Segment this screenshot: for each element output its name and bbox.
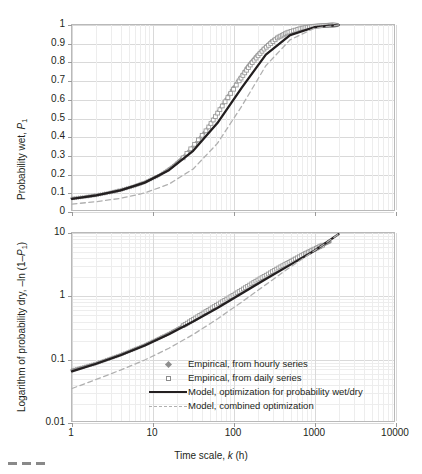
legend-dashed-line-icon-glyph [149,406,187,407]
legend-item-label: Model, optimization for probability wet/… [188,385,363,399]
x-axis-tick [72,212,73,216]
y-axis-tick-label: 0.1 [25,354,65,364]
x-axis-title: Time scale, k (h) [0,450,422,461]
gridline-vertical [396,25,397,210]
x-title-post: (h) [233,450,248,461]
gridline-vertical [396,233,397,421]
series-line-model-combined [72,25,339,204]
y-axis-tick-label: 0.2 [25,169,65,179]
y-axis-tick-label: 0.7 [25,75,65,85]
legend-item: Empirical, from daily series [148,371,363,385]
legend: Empirical, from hourly seriesEmpirical, … [148,357,363,413]
y-axis-tick-label: 0.9 [25,38,65,48]
y-axis-tick-label: 0.01 [25,417,65,427]
bottom-y-title-text: Logarithm of probability dry, –ln (1– [16,256,27,412]
series-markers-daily [181,243,324,327]
legend-item-label: Empirical, from hourly series [188,357,308,371]
top-y-title-var: P [16,123,27,130]
y-axis-tick-label: 10 [25,227,65,237]
x-axis-tick [396,212,397,216]
legend-item: Model, optimization for probability wet/… [148,385,363,399]
x-axis-tick [315,212,316,216]
bottom-y-title-var: P [16,249,27,256]
y-axis-tick-label: 0.5 [25,113,65,123]
gridline-horizontal [72,423,394,424]
legend-square-icon-glyph [166,376,171,381]
legend-dashed-line-icon [148,399,188,413]
series-markers-hourly [70,23,340,201]
bottom-y-title-sub: 1 [20,245,29,249]
y-axis-tick-label: 0 [25,206,65,216]
y-axis-tick-label: 0.6 [25,94,65,104]
y-axis-tick-label: 0.8 [25,56,65,66]
gridline-horizontal [72,212,394,213]
y-axis-tick-label: 0.1 [25,187,65,197]
legend-solid-line-icon-glyph [149,391,187,394]
bottom-panel-y-axis-title: Logarithm of probability dry, –ln (1–P1) [16,242,28,412]
legend-diamond-icon [148,357,188,371]
x-axis-tick [153,212,154,216]
legend-square-icon [148,371,188,385]
legend-item: Empirical, from hourly series [148,357,363,371]
caption-crop-artifact [8,462,60,466]
legend-item-label: Empirical, from daily series [188,371,302,385]
y-axis-tick-label: 0.3 [25,150,65,160]
legend-item: Model, combined optimization [148,399,363,413]
x-axis-tick-label: 10 [122,428,182,438]
y-axis-tick-label: 1 [25,19,65,29]
y-axis-tick-label: 1 [25,290,65,300]
legend-solid-line-icon [148,385,188,399]
figure-root: Probability wet, P1 Logarithm of probabi… [0,0,422,474]
x-axis-tick-label: 1000 [284,428,344,438]
legend-diamond-icon-glyph [164,360,171,367]
x-axis-tick-label: 1 [41,428,101,438]
x-axis-tick-label: 100 [203,428,263,438]
series-line-model-wetdry [72,25,339,199]
y-axis-tick-label: 0.4 [25,131,65,141]
top-plot-area [71,24,395,211]
x-axis-tick [234,212,235,216]
legend-item-label: Model, combined optimization [188,399,314,413]
x-axis-tick-label: 10000 [365,428,422,438]
x-title-pre: Time scale, [174,450,228,461]
